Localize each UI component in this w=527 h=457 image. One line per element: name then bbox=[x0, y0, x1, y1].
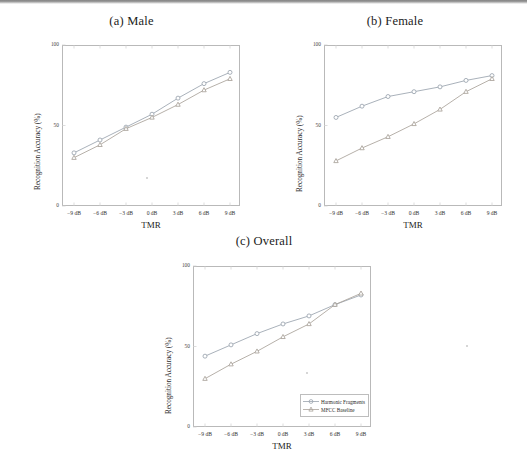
x-tick-label: −3 dB bbox=[243, 431, 271, 437]
x-tick-label: 3 dB bbox=[295, 431, 323, 437]
x-tick-label: −3 dB bbox=[374, 210, 402, 216]
x-tick-label: 9 dB bbox=[478, 210, 506, 216]
legend-item-mfcc: MFCC Baseline bbox=[303, 406, 365, 413]
y-axis-label-female: Recognition Accuracy (%) bbox=[296, 115, 304, 192]
x-axis-label-overall: TMR bbox=[193, 441, 371, 451]
legend-item-harmonic: Harmonic Fragments bbox=[303, 398, 365, 405]
y-tick-label: 50 bbox=[175, 343, 190, 349]
y-axis-label-overall: Recognition Accuracy (%) bbox=[165, 337, 173, 414]
panel-female: (b) Female Recognition Accuracy (%) TMR … bbox=[263, 14, 527, 229]
x-tick-label: 6 dB bbox=[321, 431, 349, 437]
x-tick-label: 3 dB bbox=[164, 210, 192, 216]
series-canvas-male bbox=[62, 45, 240, 206]
x-tick-label: 3 dB bbox=[426, 210, 454, 216]
x-tick-label: −3 dB bbox=[112, 210, 140, 216]
x-tick-label: 0 dB bbox=[269, 431, 297, 437]
legend-label-mfcc: MFCC Baseline bbox=[321, 407, 355, 413]
y-tick-label: 50 bbox=[44, 122, 59, 128]
y-tick-label: 0 bbox=[175, 423, 190, 429]
legend-marker-circle-icon bbox=[303, 398, 319, 405]
panel-title-female: (b) Female bbox=[263, 14, 527, 29]
y-axis-label-male: Recognition Accuracy (%) bbox=[34, 113, 42, 190]
x-tick-label: −6 dB bbox=[86, 210, 114, 216]
y-tick-label: 100 bbox=[175, 262, 190, 268]
x-tick-label: 6 dB bbox=[452, 210, 480, 216]
x-axis-label-male: TMR bbox=[62, 220, 240, 230]
x-tick-label: 0 dB bbox=[138, 210, 166, 216]
x-tick-label: −9 dB bbox=[60, 210, 88, 216]
y-tick-label: 100 bbox=[44, 41, 59, 47]
x-tick-label: −6 dB bbox=[217, 431, 245, 437]
y-tick-label: 50 bbox=[306, 122, 321, 128]
panel-title-male: (a) Male bbox=[0, 14, 263, 29]
x-axis-label-female: TMR bbox=[324, 220, 502, 230]
x-tick-label: 9 dB bbox=[347, 431, 375, 437]
series-canvas-female bbox=[324, 45, 502, 206]
panel-title-overall: (c) Overall bbox=[132, 234, 396, 249]
panel-male: (a) Male Recognition Accuracy (%) TMR 05… bbox=[0, 14, 263, 229]
figure-container: (a) Male Recognition Accuracy (%) TMR 05… bbox=[0, 0, 527, 457]
legend-overall: Harmonic Fragments MFCC Baseline bbox=[300, 394, 369, 417]
y-tick-label: 0 bbox=[306, 202, 321, 208]
x-tick-label: 0 dB bbox=[400, 210, 428, 216]
scan-speck bbox=[306, 372, 308, 374]
scan-speck bbox=[466, 345, 468, 347]
panel-overall: (c) Overall Recognition Accuracy (%) Har… bbox=[132, 234, 396, 454]
x-tick-label: 9 dB bbox=[216, 210, 244, 216]
scan-speck bbox=[146, 177, 148, 179]
x-tick-label: 6 dB bbox=[190, 210, 218, 216]
y-tick-label: 0 bbox=[44, 202, 59, 208]
x-tick-label: −9 dB bbox=[191, 431, 219, 437]
plot-area-female bbox=[324, 45, 502, 206]
legend-marker-triangle-icon bbox=[303, 406, 319, 413]
y-tick-label: 100 bbox=[306, 41, 321, 47]
x-tick-label: −6 dB bbox=[348, 210, 376, 216]
plot-area-male bbox=[62, 45, 240, 206]
x-tick-label: −9 dB bbox=[322, 210, 350, 216]
legend-label-harmonic: Harmonic Fragments bbox=[321, 399, 365, 405]
plot-area-overall: Harmonic Fragments MFCC Baseline bbox=[193, 266, 371, 427]
